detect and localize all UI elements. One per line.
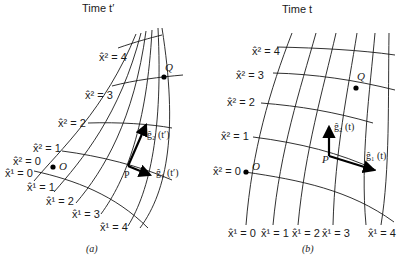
point-origin-b	[243, 169, 248, 174]
label-g2-a: ĝ₂ (t′)	[147, 129, 170, 141]
x1-curve-1	[273, 33, 316, 225]
panel-b-x1-curves	[246, 33, 389, 225]
panel-b-x2-curves	[245, 47, 395, 222]
vector-g2-a	[128, 125, 146, 166]
coordinate-grid-diagram: Time t′ x̂² = 4 x̂² = 3 x̂² = 2 x̂² = 1 …	[0, 0, 402, 261]
label-x1-4: x̂¹ = 4	[100, 221, 128, 233]
label-x2-0: x̂² = 0	[13, 155, 41, 167]
label-x1-3: x̂¹ = 3	[72, 208, 100, 220]
label-x2-2: x̂² = 2	[58, 117, 86, 129]
label-g2-b: ĝ₂ (t)	[334, 121, 354, 133]
label-x2-2-b: x̂² = 2	[227, 96, 255, 108]
point-q-b	[353, 85, 358, 90]
point-q-a	[161, 74, 166, 79]
x2-curve-4	[277, 47, 395, 55]
caption-b: (b)	[302, 243, 314, 255]
label-x2-1: x̂² = 1	[33, 142, 61, 154]
label-x2-1-b: x̂² = 1	[221, 130, 249, 142]
label-x1-2-b: x̂¹ = 2	[292, 227, 320, 239]
label-q-a: Q	[165, 61, 173, 73]
x2-curve-0	[245, 172, 394, 222]
panel-b: Time t x̂² = 4 x̂² = 3 x̂² = 2 x̂² = 1 x…	[213, 3, 396, 255]
caption-a: (a)	[86, 243, 98, 255]
panel-a: Time t′ x̂² = 4 x̂² = 3 x̂² = 2 x̂² = 1 …	[5, 2, 183, 255]
label-p-b: P	[321, 153, 329, 165]
label-x1-1: x̂¹ = 1	[27, 181, 55, 193]
label-g1-a: ĝ₁ (t′)	[156, 167, 179, 179]
label-g1-b: ĝ₁ (t)	[366, 150, 386, 162]
label-q-b: Q	[357, 70, 365, 82]
label-p-a: P	[124, 169, 130, 180]
x2-curve-3	[273, 73, 395, 90]
panel-b-title: Time t	[282, 3, 312, 15]
label-x2-4: x̂² = 4	[99, 51, 127, 63]
label-x1-1-b: x̂¹ = 1	[261, 227, 289, 239]
label-x1-0: x̂¹ = 0	[5, 167, 33, 179]
x2-curve-2	[88, 123, 172, 128]
x1-curve-2	[298, 33, 336, 225]
label-x2-3-b: x̂² = 3	[236, 69, 264, 81]
panel-a-title: Time t′	[82, 2, 114, 14]
label-x1-3-b: x̂¹ = 3	[322, 227, 350, 239]
label-x2-3: x̂² = 3	[85, 89, 113, 101]
x1-curve-5	[381, 33, 389, 225]
point-origin-a	[50, 164, 55, 169]
x1-curve-4	[364, 33, 375, 225]
label-origin-b: O	[252, 160, 260, 172]
label-x2-0-b: x̂² = 0	[213, 165, 241, 177]
label-x1-2: x̂¹ = 2	[46, 195, 74, 207]
label-x1-4-b: x̂¹ = 4	[368, 227, 396, 239]
x1-curve-4	[128, 28, 159, 226]
label-x2-4-b: x̂² = 4	[252, 45, 280, 57]
x1-curve-0	[246, 33, 292, 225]
label-origin-a: O	[59, 160, 67, 172]
label-x1-0-b: x̂¹ = 0	[228, 227, 256, 239]
